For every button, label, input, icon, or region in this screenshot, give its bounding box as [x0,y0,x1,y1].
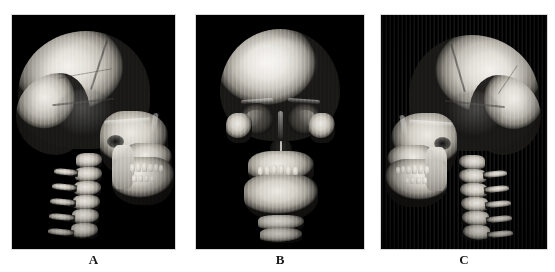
spinous-process [52,183,78,193]
zygomatic-bone-right [309,113,335,143]
panel-b-image [195,14,365,250]
cervical-vertebra [260,228,302,243]
panel-label-b: B [195,252,365,268]
panel-a-image [11,14,176,250]
frontal-bone [240,39,320,101]
spinous-process [50,198,77,208]
skull-lateral-left-render [12,15,175,249]
spinous-process [485,200,512,210]
mandibular-dentition [387,177,427,187]
cervical-spine [457,155,519,250]
maxillary-dentition [385,165,429,177]
nasal-bridge [278,111,283,139]
spinous-process [487,230,514,240]
panel-label-a: A [11,252,176,268]
cervical-spine [42,153,104,249]
spinous-process [486,215,513,225]
spinous-process [49,213,76,223]
panel-label-c: C [380,252,548,268]
spinous-process [484,185,510,195]
maxillary-dentition [130,163,174,175]
skull-lateral-right-render [381,15,547,249]
zygomatic-bone-left [226,113,252,143]
cervical-vertebra [463,225,490,241]
mandibular-dentition [132,175,172,185]
skull-anterior-render [196,15,364,249]
spinous-process [48,228,75,238]
cervical-vertebra [71,223,98,239]
panel-c-image [380,14,548,250]
figure-container: A B C [0,0,555,272]
spinous-process [483,170,508,179]
spinous-process [54,168,79,177]
